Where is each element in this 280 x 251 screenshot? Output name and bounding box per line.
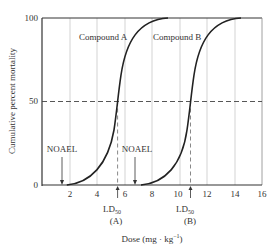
x-axis-text: Dose (mg · kg — [121, 234, 173, 244]
y-axis-label: Cumulative percent mortality — [7, 48, 17, 154]
x-tick-10: 10 — [174, 189, 184, 199]
ld50-a-label: LD50 — [103, 204, 121, 215]
ld50-b-compound: (B) — [184, 216, 196, 226]
ld50-b-label: LD50 — [176, 204, 194, 215]
ld-a-text: LD — [103, 204, 115, 214]
y-tick-0: 0 — [34, 180, 39, 190]
x-axis-close: ) — [180, 234, 183, 244]
x-tick-16: 16 — [258, 189, 268, 199]
x-tick-6: 6 — [123, 189, 128, 199]
ld50-b-arrowhead — [189, 186, 193, 190]
ld-b-sub: 50 — [188, 209, 194, 215]
y-tick-100: 100 — [25, 13, 39, 23]
noael-a-arrowhead — [60, 180, 64, 185]
x-tick-4: 4 — [95, 189, 100, 199]
x-tick-2: 2 — [68, 189, 73, 199]
x-tick-14: 14 — [231, 189, 241, 199]
compound-b-label: Compound B — [153, 32, 201, 42]
chart: 100 50 0 2 4 6 8 10 12 14 16 Cumulative … — [0, 0, 280, 251]
compound-a-label: Compound A — [79, 32, 128, 42]
y-tick-50: 50 — [29, 96, 39, 106]
x-axis-label: Dose (mg · kg−1) — [121, 233, 182, 244]
ld50-a-arrowhead — [116, 186, 120, 190]
x-tick-12: 12 — [203, 189, 212, 199]
ld50-a-compound: (A) — [110, 216, 123, 226]
x-tick-8: 8 — [150, 189, 155, 199]
noael-a-label: NOAEL — [47, 144, 78, 154]
ld-b-text: LD — [176, 204, 188, 214]
ld-a-sub: 50 — [115, 209, 121, 215]
noael-b-arrowhead — [133, 180, 137, 185]
noael-b-label: NOAEL — [122, 144, 153, 154]
